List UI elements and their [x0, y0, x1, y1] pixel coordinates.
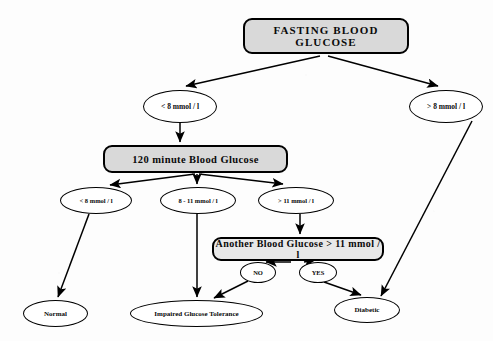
edge-fasting-to-lt8 — [186, 56, 320, 86]
node-120min-8-to-11[interactable]: 8 - 11 mmol / l — [160, 187, 236, 214]
node-outcome-impaired-glucose-tolerance[interactable]: Impaired Glucose Tolerance — [130, 300, 263, 327]
edge-120min-to-lt8b — [110, 174, 195, 185]
node-fasting-lt-8[interactable]: < 8 mmol / l — [143, 90, 217, 123]
node-answer-no[interactable]: NO — [240, 262, 276, 283]
edge-no-to-igt — [214, 281, 248, 298]
edge-lt8b-to-normal — [58, 214, 89, 297]
node-answer-yes[interactable]: YES — [299, 262, 337, 283]
edge-fasting-to-gt8 — [328, 56, 438, 86]
node-outcome-normal[interactable]: Normal — [23, 300, 88, 327]
node-fasting-blood-glucose[interactable]: FASTING BLOOD GLUCOSE — [243, 18, 409, 54]
node-label: NO — [253, 269, 263, 276]
edge-120min-to-gt11 — [199, 174, 283, 184]
node-120min-gt-11[interactable]: > 11 mmol / l — [258, 187, 334, 214]
node-another-blood-glucose[interactable]: Another Blood Glucose > 11 mmol / l — [212, 237, 384, 261]
node-label: Diabetic — [355, 306, 380, 314]
node-label: Normal — [44, 310, 67, 318]
node-outcome-diabetic[interactable]: Diabetic — [334, 297, 400, 323]
node-fasting-gt-8[interactable]: > 8 mmol / l — [409, 90, 483, 123]
node-label: YES — [312, 269, 325, 276]
node-label: > 11 mmol / l — [278, 197, 314, 204]
node-label: > 8 mmol / l — [427, 102, 465, 111]
node-label: < 8 mmol / l — [80, 197, 113, 204]
node-label: < 8 mmol / l — [161, 102, 199, 111]
node-120min-lt-8[interactable]: < 8 mmol / l — [60, 187, 132, 214]
node-label: Impaired Glucose Tolerance — [154, 310, 238, 318]
node-label: 8 - 11 mmol / l — [178, 197, 217, 204]
edge-yes-to-diabetic — [324, 282, 361, 295]
node-120-minute-blood-glucose[interactable]: 120 minute Blood Glucose — [103, 145, 288, 173]
node-label: Another Blood Glucose > 11 mmol / l — [214, 238, 382, 260]
node-label: FASTING BLOOD GLUCOSE — [245, 24, 407, 48]
edge-gt8-to-diabetic — [381, 121, 472, 296]
node-label: 120 minute Blood Glucose — [132, 154, 259, 165]
flowchart-canvas: FASTING BLOOD GLUCOSE < 8 mmol / l > 8 m… — [0, 0, 493, 341]
